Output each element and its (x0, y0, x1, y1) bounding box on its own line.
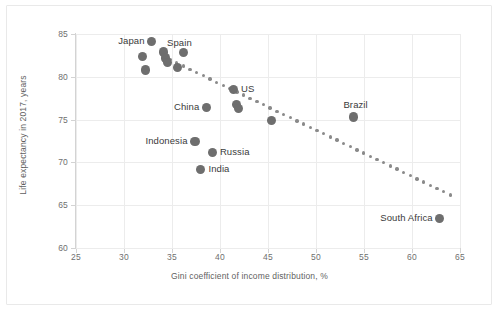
x-tick-mark (268, 249, 269, 253)
point-label-brazil: Brazil (343, 99, 367, 110)
trendline-dot (302, 122, 305, 125)
gridline-vertical (316, 34, 317, 248)
gridline-vertical (76, 34, 77, 248)
y-tick-mark (71, 248, 75, 249)
trendline-dot (208, 77, 211, 80)
point-label-south-africa: South Africa (380, 212, 432, 223)
y-tick-label: 85 (42, 29, 68, 39)
x-tick-label: 50 (301, 252, 331, 262)
y-tick-label: 65 (42, 200, 68, 210)
scatter-chart: 606570758085 253035404550556065 Gini coe… (0, 0, 499, 312)
y-tick-label: 75 (42, 115, 68, 125)
data-point-indonesia[interactable] (190, 137, 199, 146)
trendline-dot (315, 129, 318, 132)
trendline-dot (275, 110, 278, 113)
x-tick-mark (172, 249, 173, 253)
trendline-dot (395, 167, 398, 170)
trendline-dot (182, 64, 185, 67)
x-tick-mark (220, 249, 221, 253)
point-label-us: US (241, 83, 254, 94)
x-tick-mark (316, 249, 317, 253)
x-tick-mark (364, 249, 365, 253)
trendline-dot (389, 164, 392, 167)
trendline-dot (415, 177, 418, 180)
trendline-dot (295, 119, 298, 122)
x-tick-mark (76, 249, 77, 253)
gridline-vertical (124, 34, 125, 248)
trendline-dot (362, 151, 365, 154)
x-tick-mark (124, 249, 125, 253)
y-tick-mark (71, 162, 75, 163)
x-tick-label: 45 (253, 252, 283, 262)
data-point[interactable] (163, 58, 172, 67)
x-tick-label: 25 (61, 252, 91, 262)
x-tick-mark (412, 249, 413, 253)
gridline-vertical (268, 34, 269, 248)
data-point[interactable] (234, 104, 243, 113)
y-axis-title: Life expectancy in 2017, years (18, 50, 28, 220)
data-point[interactable] (138, 52, 147, 61)
trendline-dot (248, 97, 251, 100)
x-tick-label: 60 (397, 252, 427, 262)
point-label-india: India (208, 163, 229, 174)
y-tick-label: 80 (42, 72, 68, 82)
trendline-dot (335, 138, 338, 141)
x-tick-mark (460, 249, 461, 253)
point-label-russia: Russia (220, 146, 250, 157)
trendline-dot (355, 148, 358, 151)
x-tick-label: 55 (349, 252, 379, 262)
gridline-vertical (460, 34, 461, 248)
y-tick-mark (71, 34, 75, 35)
trendline-dot (429, 184, 432, 187)
x-axis-title: Gini coefficient of income distribution,… (0, 271, 499, 281)
y-tick-mark (71, 77, 75, 78)
trendline-dot (188, 68, 191, 71)
x-tick-label: 65 (445, 252, 475, 262)
x-tick-label: 40 (205, 252, 235, 262)
point-label-china: China (174, 101, 199, 112)
point-label-japan: Japan (118, 35, 144, 46)
y-tick-label: 70 (42, 157, 68, 167)
trendline-dot (268, 106, 271, 109)
point-label-spain: Spain (167, 37, 192, 48)
x-tick-label: 30 (109, 252, 139, 262)
y-tick-mark (71, 120, 75, 121)
point-label-indonesia: Indonesia (145, 135, 187, 146)
trendline-dot (435, 187, 438, 190)
trendline-dot (255, 100, 258, 103)
trendline-dot (329, 135, 332, 138)
gridline-vertical (364, 34, 365, 248)
y-tick-mark (71, 205, 75, 206)
trendline-dot (449, 193, 452, 196)
x-tick-label: 35 (157, 252, 187, 262)
data-point[interactable] (141, 65, 150, 74)
data-point-russia[interactable] (208, 148, 217, 157)
trendline-dot (309, 126, 312, 129)
data-point-brazil[interactable] (349, 112, 358, 121)
trendline-dot (375, 158, 378, 161)
trendline-dot (369, 155, 372, 158)
gridline-vertical (220, 34, 221, 248)
